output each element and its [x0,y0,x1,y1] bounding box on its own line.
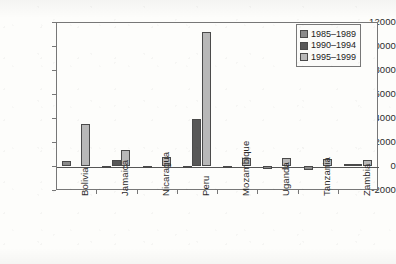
x-axis-label-jamaica: Jamaica [120,160,130,196]
x-axis-label-bolivia: Bolivia [80,167,90,196]
bar-uganda-1985-1989 [263,166,272,169]
bar-bolivia-1995-1999 [81,124,90,166]
bar-bolivia-1985-1989 [62,161,71,166]
x-axis-tick-mark [96,190,97,194]
x-axis-tick-mark [257,190,258,194]
bar-nicaragua-1985-1989 [143,166,152,168]
x-axis-tick-mark [137,190,138,194]
legend-swatch-1995-1999 [300,53,308,61]
legend-swatch-1990-1994 [300,42,308,50]
legend-entry: 1985–1989 [300,29,356,40]
legend-label: 1985–1989 [311,30,356,39]
bar-peru-1990-1994 [192,119,201,166]
bar-peru-1985-1989 [183,166,192,168]
x-axis-label-peru: Peru [201,176,211,196]
legend-label: 1995–1999 [311,53,356,62]
bar-mozambique-1985-1989 [223,166,232,168]
legend-swatch-1985-1989 [300,30,308,38]
x-axis-label-mozambique: Mozambique [241,141,251,196]
chart-legend: 1985–19891990–19941995–1999 [296,24,361,67]
x-axis-label-nicaragua: Nicaragua [161,152,171,196]
bar-zambia-1985-1989 [344,164,353,166]
bar-jamaica-1985-1989 [102,166,111,168]
x-axis-tick-mark [217,190,218,194]
y-axis-tick-mark [52,190,56,191]
x-axis-label-zambia: Zambia [362,164,372,196]
bar-chart: 120001000080006000400020000-2000 Bolivia… [0,0,396,264]
bar-tanzania-1985-1989 [304,166,313,170]
x-axis-tick-mark [298,190,299,194]
x-axis-tick-mark [338,190,339,194]
x-axis-tick-mark [177,190,178,194]
legend-entry: 1995–1999 [300,52,356,63]
legend-label: 1990–1994 [311,41,356,50]
legend-entry: 1990–1994 [300,40,356,51]
x-axis-label-uganda: Uganda [281,162,291,196]
x-axis-label-tanzania: Tanzania [322,157,332,196]
bar-peru-1995-1999 [202,32,211,166]
